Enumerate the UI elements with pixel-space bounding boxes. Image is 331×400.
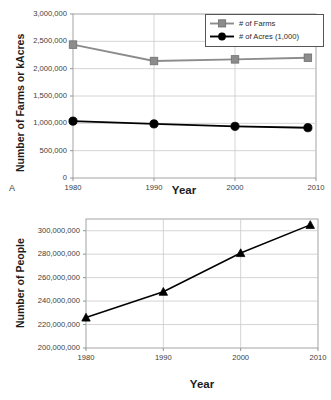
data-point-marker	[150, 120, 158, 128]
y-axis-tick-label: 1,000,000	[11, 118, 67, 127]
y-axis-tick-label: 500,000	[11, 146, 67, 155]
y-axis-tick-label: 240,000,000	[24, 296, 80, 305]
legend-marker-circle	[218, 33, 226, 41]
y-axis-tick-label: 2,000,000	[11, 64, 67, 73]
two-panel-line-chart-figure: Number of Farms or kAcres Year # of Farm…	[0, 0, 331, 400]
x-axis-tick-label: 1980	[53, 183, 93, 192]
data-point-marker	[69, 117, 77, 125]
data-point-marker	[231, 56, 239, 64]
chart-panel-b: Number of People Year B 200,000,000220,0…	[0, 200, 331, 400]
legend-swatch-acres	[209, 31, 235, 42]
data-point-marker	[304, 124, 312, 132]
y-axis-tick-label: 280,000,000	[24, 249, 80, 258]
legend-label: # of Acres (1,000)	[239, 32, 299, 41]
legend-swatch-farms	[209, 18, 235, 29]
x-axis-tick-label: 2010	[298, 353, 331, 362]
data-point-marker	[69, 41, 77, 49]
y-axis-tick-label: 2,500,000	[11, 36, 67, 45]
y-axis-tick-label: 200,000,000	[24, 343, 80, 352]
y-axis-tick-label: 260,000,000	[24, 273, 80, 282]
panel-a-legend: # of Farms# of Acres (1,000)	[205, 14, 324, 47]
data-point-marker	[150, 57, 158, 65]
chart-panel-a: Number of Farms or kAcres Year # of Farm…	[0, 0, 331, 200]
x-axis-tick-label: 2000	[221, 353, 261, 362]
y-axis-tick-label: 300,000,000	[24, 226, 80, 235]
legend-label: # of Farms	[239, 19, 275, 28]
y-axis-tick-label: 3,000,000	[11, 9, 67, 18]
plot-frame	[86, 219, 318, 348]
legend-marker-square	[219, 20, 226, 27]
data-point-marker	[304, 54, 312, 62]
y-axis-tick-label: 220,000,000	[24, 320, 80, 329]
x-axis-tick-label: 1990	[143, 353, 183, 362]
legend-item-2: # of Acres (1,000)	[209, 30, 319, 43]
x-axis-tick-label: 2000	[215, 183, 255, 192]
x-axis-tick-label: 1990	[134, 183, 174, 192]
y-axis-tick-label: 1,500,000	[11, 91, 67, 100]
panel-a-letter: A	[9, 183, 15, 193]
x-axis-tick-label: 2010	[296, 183, 331, 192]
legend-item-1: # of Farms	[209, 17, 319, 30]
x-axis-tick-label: 1980	[66, 353, 106, 362]
panel-b-x-axis-title: Year	[172, 378, 232, 390]
data-point-marker	[231, 122, 239, 130]
y-axis-tick-label: 0	[11, 173, 67, 182]
